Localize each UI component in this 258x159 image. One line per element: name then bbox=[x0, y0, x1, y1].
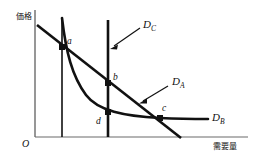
y-axis-title: 価格 bbox=[16, 12, 25, 22]
curve-label-da-sub: A bbox=[180, 81, 185, 90]
curve-db bbox=[62, 18, 208, 119]
arrow-to-da bbox=[139, 86, 168, 104]
origin-label: O bbox=[22, 139, 29, 149]
point-marker-b bbox=[105, 80, 111, 86]
point-marker-c bbox=[157, 115, 163, 121]
chart-canvas bbox=[0, 0, 258, 159]
curve-label-db-main: D bbox=[212, 111, 220, 123]
point-label-c: c bbox=[162, 104, 166, 114]
point-marker-a bbox=[59, 44, 65, 50]
curve-label-db-sub: B bbox=[220, 117, 225, 126]
x-axis-title: 需要量 bbox=[213, 143, 237, 151]
point-marker-d bbox=[105, 109, 111, 115]
curve-label-dc: DC bbox=[143, 19, 156, 33]
point-label-b: b bbox=[113, 73, 118, 83]
demand-curve-figure: 価格 需要量 O a b c d DC DA DB bbox=[0, 0, 258, 159]
point-label-d: d bbox=[96, 117, 101, 127]
point-label-a: a bbox=[67, 37, 72, 47]
curve-label-db: DB bbox=[212, 112, 225, 126]
curve-label-dc-main: D bbox=[143, 18, 151, 30]
arrow-to-dc bbox=[110, 28, 140, 50]
curve-label-da-main: D bbox=[172, 75, 180, 87]
curve-label-da: DA bbox=[172, 76, 185, 90]
curve-label-dc-sub: C bbox=[151, 24, 156, 33]
